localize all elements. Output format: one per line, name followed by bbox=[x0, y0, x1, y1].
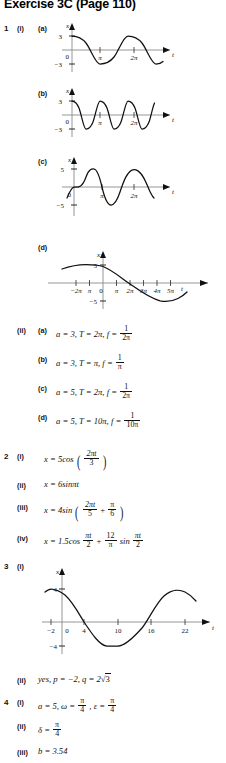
xlabel-1c: t bbox=[172, 188, 175, 196]
xtick-label-0: 0 bbox=[65, 627, 69, 635]
xtick-label-4: 4 bbox=[82, 627, 86, 635]
y-axis-arrow bbox=[69, 23, 75, 30]
answer-2i-lhs: x = 5cos bbox=[44, 454, 74, 464]
close-paren: ) bbox=[120, 505, 123, 521]
xtick-label-2pi: 2π bbox=[130, 119, 138, 127]
frac-numerator: π bbox=[108, 697, 116, 705]
answer-1ii-c-freq-lhs: f = bbox=[107, 387, 117, 397]
xtick-label-3pi: 3π bbox=[139, 287, 148, 295]
answer-1ii-b-frac: 1 π bbox=[116, 354, 124, 372]
answer-1ii-c-frac: 1 2π bbox=[120, 383, 132, 401]
xtick-label-neg2: −2 bbox=[47, 627, 55, 635]
curve-3i bbox=[45, 589, 196, 646]
ytick-label-neg4: −4 bbox=[50, 643, 58, 651]
y-axis-arrow bbox=[69, 88, 75, 95]
answer-2iii-frac1: 2πt 5 bbox=[83, 501, 97, 519]
graph-3i: x t 4 −4 −2 0 4 10 16 22 bbox=[30, 558, 220, 658]
part-3-i: (i) bbox=[17, 562, 24, 571]
part-1-ii-d: (d) bbox=[38, 413, 47, 422]
question-number-3: 3 bbox=[4, 562, 8, 571]
ytick-label-neg3: −3 bbox=[55, 126, 63, 134]
answer-1ii-b-amplitude: a = 3, bbox=[56, 358, 77, 368]
answer-1ii-a-freq-lhs: f = bbox=[107, 329, 117, 339]
graph-1d: x t 5 −5 −2π π 0 π 2π 3π 4π 5π bbox=[42, 243, 222, 315]
xtick-label-2pi: 2π bbox=[126, 287, 134, 295]
part-1-ii-a: (a) bbox=[38, 326, 47, 335]
answer-4i-epsilon-lhs: , ε = bbox=[89, 701, 105, 711]
xtick-label-10: 10 bbox=[115, 627, 123, 635]
answer-4ii: δ = π 4 bbox=[38, 721, 62, 739]
answer-1ii-a-period: T = 2π, bbox=[79, 329, 104, 339]
answer-1ii-a-amplitude: a = 3, bbox=[56, 329, 77, 339]
frac-numerator: π bbox=[53, 721, 61, 729]
answer-1ii-d-freq-lhs: f = bbox=[111, 416, 121, 426]
x-axis-arrow bbox=[163, 47, 170, 53]
ylabel-1b: x bbox=[65, 87, 70, 95]
answer-1ii-c: a = 5, T = 2π, f = 1 2π bbox=[56, 383, 133, 401]
frac-denominator: π bbox=[116, 362, 124, 371]
part-1-i-c: (c) bbox=[38, 157, 47, 166]
xtick-label-5pi: 5π bbox=[167, 287, 175, 295]
question-number-2: 2 bbox=[4, 452, 8, 461]
xtick-label-0: 0 bbox=[68, 191, 72, 199]
page-title: Exercise 3C (Page 110) bbox=[4, 0, 136, 11]
part-1-ii-c: (c) bbox=[38, 384, 47, 393]
frac-numerator: 1 bbox=[124, 412, 140, 420]
answer-2iv-frac1: πt 2 bbox=[83, 532, 93, 550]
frac-denominator: 4 bbox=[53, 729, 61, 738]
plus-sign: + bbox=[97, 536, 102, 546]
frac-numerator: π bbox=[78, 697, 86, 705]
frac-numerator: 1 bbox=[120, 325, 132, 333]
part-1-i-b: (b) bbox=[38, 89, 47, 98]
xtick-label-pi: π bbox=[98, 119, 102, 127]
x-axis-arrow bbox=[200, 280, 208, 286]
question-number-4: 4 bbox=[4, 698, 8, 707]
xlabel-1d: t bbox=[181, 285, 184, 293]
part-4-i: (i) bbox=[17, 698, 24, 707]
part-4-ii: (ii) bbox=[17, 722, 26, 731]
answer-4i-amplitude: a = 5, bbox=[38, 701, 59, 711]
frac-denominator: 2π bbox=[120, 333, 132, 342]
answer-1ii-b-freq-lhs: f = bbox=[102, 358, 112, 368]
frac-denominator: 2 bbox=[133, 540, 143, 549]
answer-2iv-frac3: πt 2 bbox=[133, 532, 143, 550]
answer-2iv: x = 1.5cos πt 2 + 12 π sin πt 2 bbox=[44, 532, 144, 550]
xtick-label-pi: π bbox=[98, 54, 102, 62]
frac-denominator: π bbox=[105, 540, 117, 549]
question-number-1: 1 bbox=[4, 24, 8, 33]
answer-2i-frac: 2πt 3 bbox=[84, 450, 98, 468]
answer-3ii-text: yes, p = −2, q = 2 bbox=[38, 674, 101, 684]
ytick-label-neg3: −3 bbox=[55, 61, 63, 69]
xtick-label-0: 0 bbox=[66, 118, 70, 126]
part-1-i: (i) bbox=[17, 24, 24, 33]
frac-denominator: 4 bbox=[78, 705, 86, 714]
answer-1ii-d: a = 5, T = 10π, f = 1 10π bbox=[56, 412, 141, 430]
y-axis-arrow bbox=[59, 568, 65, 575]
ylabel-1c: x bbox=[67, 156, 72, 164]
answer-1ii-d-period: T = 10π, bbox=[79, 416, 109, 426]
part-2-iv: (iv) bbox=[17, 534, 28, 543]
xtick-label-pi: π bbox=[100, 192, 104, 200]
close-paren: ) bbox=[103, 454, 106, 470]
answer-1ii-a-frac: 1 2π bbox=[120, 325, 132, 343]
ylabel-1a: x bbox=[65, 22, 70, 30]
x-axis-arrow bbox=[163, 184, 170, 190]
frac-denominator: 6 bbox=[108, 509, 116, 518]
x-axis-arrow bbox=[163, 112, 170, 118]
ytick-label-3: 3 bbox=[59, 98, 63, 106]
part-2-ii: (ii) bbox=[17, 481, 26, 490]
xtick-label-22: 22 bbox=[182, 627, 190, 635]
answer-1ii-d-frac: 1 10π bbox=[124, 412, 140, 430]
answer-2iii: x = 4sin ( 2πt 5 + π 6 ) bbox=[44, 501, 125, 521]
answer-2i: x = 5cos ( 2πt 3 ) bbox=[44, 450, 107, 470]
y-axis-arrow bbox=[100, 251, 106, 258]
ytick-label-neg5: −5 bbox=[90, 298, 98, 306]
answer-1ii-c-period: T = 2π, bbox=[79, 387, 104, 397]
answer-2ii: x = 6sinπt bbox=[44, 480, 79, 489]
xtick-label-0: 0 bbox=[66, 53, 70, 61]
sqrt-radicand: 3 bbox=[105, 673, 110, 684]
xtick-label-16: 16 bbox=[148, 627, 156, 635]
answer-4i-omega-lhs: ω = bbox=[61, 701, 75, 711]
frac-denominator: 10π bbox=[124, 420, 140, 429]
graph-1c: x t 5 −5 0 π 2π bbox=[58, 152, 180, 222]
